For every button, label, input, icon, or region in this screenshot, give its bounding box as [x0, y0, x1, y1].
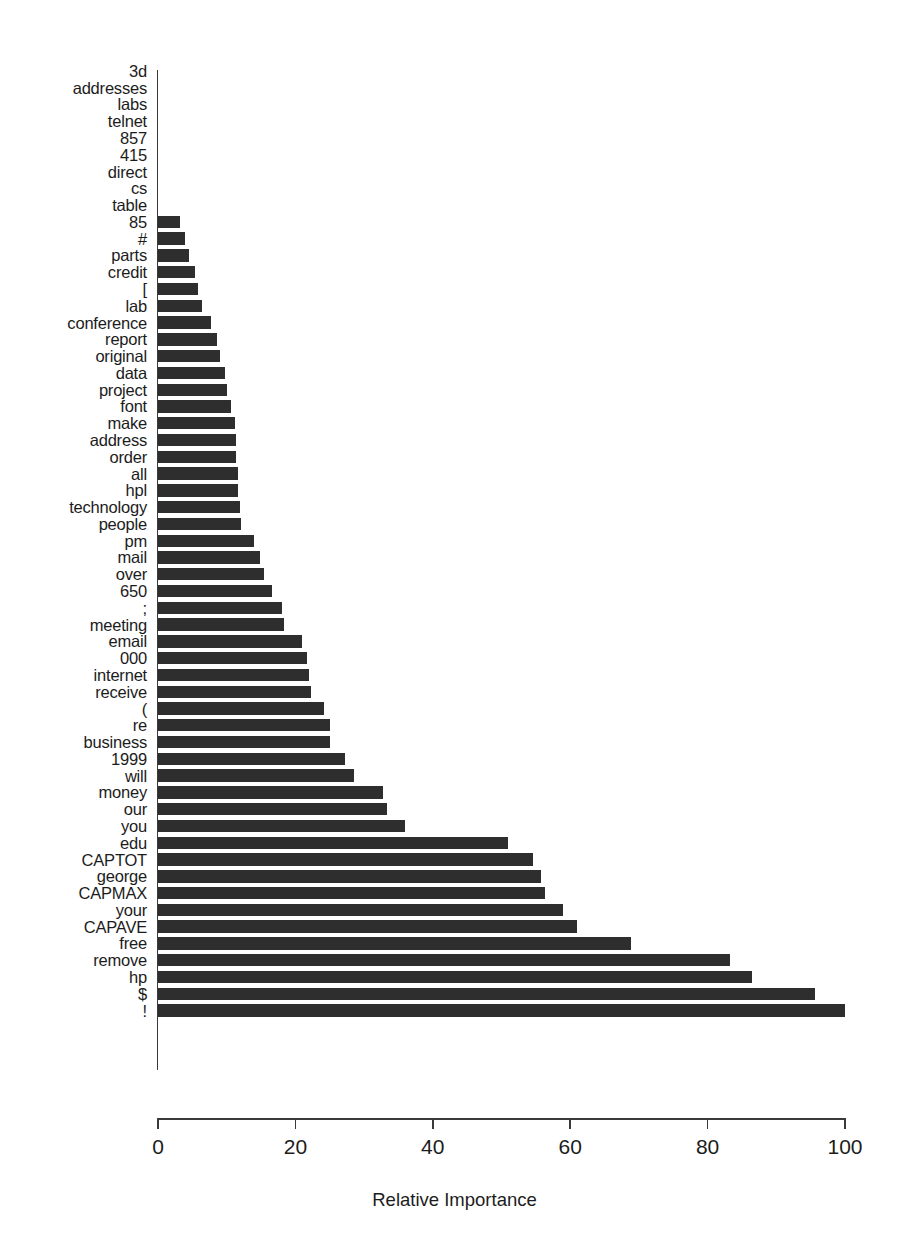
bar-row: our [0, 801, 909, 818]
bar-category-label: will [125, 767, 147, 784]
bar-row: email [0, 633, 909, 650]
bar-row: hpl [0, 482, 909, 499]
bar-category-label: pm [124, 532, 147, 549]
bar-row: george [0, 868, 909, 885]
x-axis-line [157, 1118, 845, 1120]
bar [158, 232, 185, 244]
bar-category-label: original [95, 348, 147, 365]
bar [158, 971, 752, 983]
bar [158, 451, 236, 463]
bar [158, 333, 217, 345]
bar [158, 1004, 845, 1016]
bar-category-label: 650 [120, 583, 147, 600]
bar-row: remove [0, 952, 909, 969]
bar [158, 937, 631, 949]
bar-row: credit [0, 264, 909, 281]
bar [158, 853, 533, 865]
bar-row: report [0, 331, 909, 348]
bar-row: conference [0, 314, 909, 331]
bar [158, 585, 272, 597]
bar [158, 769, 354, 781]
bar-category-label: lab [126, 298, 147, 315]
bar-row: 85 [0, 214, 909, 231]
bar [158, 216, 180, 228]
bar [158, 316, 211, 328]
bar [158, 753, 345, 765]
bar [158, 652, 307, 664]
bar-row: address [0, 432, 909, 449]
bar-category-label: labs [118, 96, 147, 113]
bar-row: all [0, 465, 909, 482]
bar-category-label: meeting [90, 616, 147, 633]
bar-row: 000 [0, 650, 909, 667]
bar-row: CAPTOT [0, 851, 909, 868]
bar-row: re [0, 717, 909, 734]
bar-category-label: free [119, 935, 147, 952]
bar-category-label: you [121, 818, 147, 835]
bar [158, 803, 387, 815]
bar-category-label: our [124, 801, 147, 818]
bar-category-label: credit [108, 264, 147, 281]
bar-category-label: data [116, 365, 147, 382]
bar-category-label: font [120, 398, 147, 415]
bar-row: over [0, 566, 909, 583]
bar-row: meeting [0, 616, 909, 633]
bar [158, 283, 198, 295]
bar-category-label: CAPMAX [79, 885, 147, 902]
bar-row: internet [0, 667, 909, 684]
bar [158, 887, 545, 899]
bar-category-label: email [109, 633, 147, 650]
bar-category-label: technology [69, 499, 147, 516]
bar-category-label: 857 [120, 130, 147, 147]
bar-category-label: [ [143, 281, 147, 298]
bar-row: $ [0, 985, 909, 1002]
bar-category-label: direct [108, 163, 147, 180]
bar-category-label: george [97, 868, 147, 885]
bar [158, 350, 220, 362]
bar-category-label: CAPAVE [84, 918, 147, 935]
bar-category-label: 000 [120, 650, 147, 667]
bar-row: [ [0, 281, 909, 298]
bar-row: data [0, 365, 909, 382]
bar-category-label: table [112, 197, 147, 214]
bar-category-label: ; [143, 600, 147, 617]
bar-category-label: 1999 [111, 751, 147, 768]
x-tick-mark [295, 1118, 297, 1129]
bar-category-label: ( [142, 700, 147, 717]
x-tick-label: 0 [152, 1136, 164, 1157]
plot-area: 3daddresseslabstelnet857415directcstable… [0, 0, 909, 1259]
x-tick-mark [157, 1118, 159, 1129]
bar-row: original [0, 348, 909, 365]
bar-row: parts [0, 247, 909, 264]
bar-category-label: over [116, 566, 147, 583]
bar [158, 618, 284, 630]
bar-row: cs [0, 180, 909, 197]
bar-row: free [0, 935, 909, 952]
bar-row: telnet [0, 113, 909, 130]
bar [158, 300, 202, 312]
bar-category-label: money [98, 784, 147, 801]
bar [158, 870, 541, 882]
x-tick-mark [844, 1118, 846, 1129]
bar-category-label: parts [111, 247, 147, 264]
bar [158, 367, 225, 379]
bar [158, 686, 311, 698]
bar-category-label: conference [67, 314, 147, 331]
bar-category-label: edu [120, 835, 147, 852]
bar-row: edu [0, 834, 909, 851]
bar [158, 635, 302, 647]
x-tick-mark [707, 1118, 709, 1129]
bar [158, 904, 563, 916]
variable-importance-chart: 3daddresseslabstelnet857415directcstable… [0, 0, 909, 1259]
bar-category-label: your [116, 902, 147, 919]
bar-row: CAPAVE [0, 918, 909, 935]
bar-category-label: receive [95, 683, 147, 700]
bar [158, 467, 238, 479]
bar [158, 954, 730, 966]
bar [158, 266, 195, 278]
bar-category-label: internet [94, 667, 147, 684]
bar [158, 920, 577, 932]
bar-category-label: address [90, 432, 147, 449]
bar-row: lab [0, 297, 909, 314]
bar-category-label: # [138, 230, 147, 247]
